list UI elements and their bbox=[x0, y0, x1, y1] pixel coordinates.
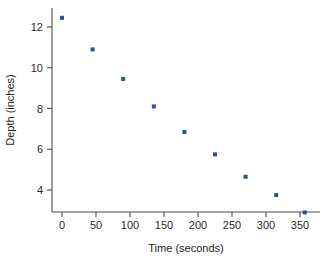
data-point bbox=[213, 152, 217, 156]
x-tick-label: 100 bbox=[121, 219, 139, 231]
x-tick-label: 300 bbox=[257, 219, 275, 231]
data-point bbox=[303, 210, 307, 214]
data-point bbox=[60, 16, 64, 20]
x-tick-label: 150 bbox=[155, 219, 173, 231]
y-axis-title: Depth (inches) bbox=[4, 74, 16, 146]
data-point bbox=[152, 104, 156, 108]
y-tick-label: 8 bbox=[37, 103, 43, 115]
x-tick-label: 350 bbox=[291, 219, 309, 231]
data-point bbox=[91, 47, 95, 51]
data-point bbox=[121, 77, 125, 81]
data-point bbox=[244, 175, 248, 179]
scatter-chart: 0501001502002503003504681012Time (second… bbox=[0, 0, 335, 268]
x-tick-label: 250 bbox=[223, 219, 241, 231]
data-point bbox=[182, 130, 186, 134]
x-axis-title: Time (seconds) bbox=[148, 242, 223, 254]
plot-area: 0501001502002503003504681012Time (second… bbox=[0, 0, 335, 268]
y-tick-label: 6 bbox=[37, 143, 43, 155]
y-tick-label: 4 bbox=[37, 184, 43, 196]
y-tick-label: 12 bbox=[31, 21, 43, 33]
y-tick-label: 10 bbox=[31, 62, 43, 74]
x-tick-label: 0 bbox=[59, 219, 65, 231]
data-point bbox=[274, 193, 278, 197]
x-tick-label: 200 bbox=[189, 219, 207, 231]
x-tick-label: 50 bbox=[90, 219, 102, 231]
